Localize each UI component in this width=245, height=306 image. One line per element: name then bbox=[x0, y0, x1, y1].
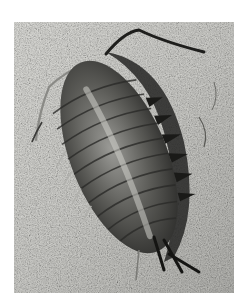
isopod-photograph bbox=[14, 22, 234, 293]
image-frame bbox=[0, 0, 245, 306]
isopod-illustration bbox=[14, 22, 234, 293]
